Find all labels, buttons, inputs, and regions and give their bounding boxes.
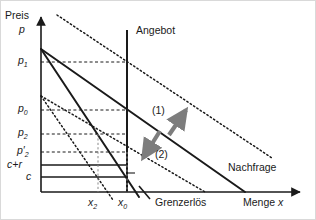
curve-grenzerloes: [41, 49, 139, 197]
y-axis-symbol: p: [19, 24, 25, 35]
tick-c-plus-r: c+r: [7, 159, 22, 170]
x-axis-title: Menge x: [243, 197, 283, 208]
tick-p0-sub: 0: [24, 109, 28, 116]
tick-x2-sub: 2: [93, 203, 97, 210]
tick-p2p-sub: 2: [25, 151, 29, 158]
tick-p1: p1: [18, 55, 28, 68]
x-axis-title-text: Menge: [243, 196, 275, 208]
tick-x2: x2: [88, 197, 97, 210]
tick-p2-prime: p′2: [17, 145, 29, 158]
tick-p2-sub: 2: [24, 133, 28, 140]
tick-c: c: [26, 171, 31, 182]
annotation-2: (2): [155, 149, 168, 160]
label-grenzerloes: Grenzerlös: [155, 197, 206, 208]
curve-grenzerloes-shift: [41, 96, 113, 200]
x-axis-symbol: x: [278, 196, 283, 208]
label-angebot: Angebot: [136, 25, 175, 36]
annotation-1: (1): [152, 105, 165, 116]
shift-arrow-1: [169, 110, 186, 135]
y-axis-title: Preis: [5, 10, 29, 21]
tick-x0: x0: [118, 197, 127, 210]
tick-p0: p0: [18, 103, 28, 116]
tick-p1-sub: 1: [24, 61, 28, 68]
tick-x0-sub: 0: [123, 203, 127, 210]
label-nachfrage: Nachfrage: [228, 162, 276, 173]
figure-canvas: Preis p Menge x p1 p0 p2 p′2 c+r c x2 x0…: [0, 0, 316, 220]
tick-p2: p2: [18, 127, 28, 140]
